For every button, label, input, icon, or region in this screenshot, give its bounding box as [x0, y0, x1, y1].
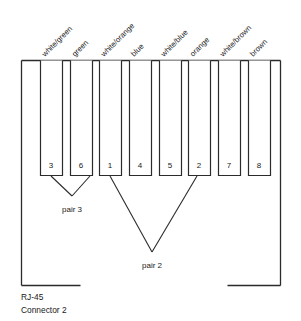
pair-3-leader-from-pin-3 — [51, 176, 72, 196]
pin-contact-4[interactable] — [130, 61, 152, 176]
wire-label-pin-4: blue — [129, 42, 146, 59]
pin-contacts-group — [41, 61, 271, 176]
caption-line-1: RJ-45 — [21, 292, 44, 302]
diagram-canvas: 3 6 1 4 5 2 7 8 white/green green white/… — [0, 0, 301, 321]
wire-color-labels-group: white/green green white/orange blue whit… — [39, 21, 269, 59]
pin-contact-7[interactable] — [219, 61, 241, 176]
pin-number-3: 1 — [108, 161, 113, 170]
wire-label-pin-3: white/green — [39, 24, 74, 59]
pin-number-6: 2 — [197, 161, 202, 170]
pin-contact-6[interactable] — [189, 61, 211, 176]
pair-3-leader-group: pair 3 — [51, 176, 90, 214]
pair-2-leader-from-pin-2 — [152, 176, 197, 252]
pair-2-leader-group: pair 2 — [110, 176, 197, 270]
pin-contact-5[interactable] — [160, 61, 182, 176]
wire-label-pin-5: white/blue — [158, 28, 189, 59]
pin-number-7: 7 — [227, 161, 232, 170]
pin-numbers-group: 3 6 1 4 5 2 7 8 — [49, 161, 262, 170]
pair-2-leader-from-pin-1 — [110, 176, 152, 252]
pin-number-1: 3 — [49, 161, 54, 170]
caption-group: RJ-45 Connector 2 — [21, 292, 67, 315]
pin-contact-8[interactable] — [249, 61, 271, 176]
pin-contact-1[interactable] — [41, 61, 63, 176]
pair-2-label: pair 2 — [142, 261, 163, 270]
wire-label-pin-7: white/brown — [217, 23, 253, 59]
rj45-connector-diagram: 3 6 1 4 5 2 7 8 white/green green white/… — [0, 0, 301, 321]
pin-number-2: 6 — [79, 161, 84, 170]
wire-label-pin-8: brown — [248, 37, 269, 58]
caption-line-2: Connector 2 — [21, 305, 67, 315]
pin-number-5: 5 — [168, 161, 173, 170]
wire-label-pin-6: green — [70, 38, 90, 58]
pair-3-label: pair 3 — [62, 205, 83, 214]
pair-3-leader-from-pin-6 — [72, 176, 90, 196]
pin-contact-3[interactable] — [100, 61, 122, 176]
pin-contact-2[interactable] — [71, 61, 93, 176]
wire-label-pin-2: orange — [188, 35, 211, 58]
pin-number-8: 8 — [257, 161, 262, 170]
pin-number-4: 4 — [138, 161, 143, 170]
